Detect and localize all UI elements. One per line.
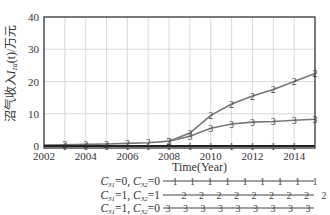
series-marker-1: 1 xyxy=(83,141,88,152)
legend-marker: 2 xyxy=(304,190,309,201)
x-tick-label: 2014 xyxy=(283,150,306,162)
data-series: 222222222222233333333111111111111 xyxy=(44,68,318,152)
legend-marker: 1 xyxy=(190,176,195,187)
series-marker-1: 1 xyxy=(271,141,276,152)
legend-label: C31=0, C32=0 xyxy=(100,175,160,189)
line-chart: 010203040 2002200420062008201020122014 2… xyxy=(0,0,330,215)
legend-label: C31=1, C32=1 xyxy=(100,189,160,203)
series-marker-1: 1 xyxy=(125,141,130,152)
legend-marker: 2 xyxy=(234,190,239,201)
legend-marker: 1 xyxy=(208,176,213,187)
legend-marker: 2 xyxy=(182,190,187,201)
legend-marker: 2 xyxy=(322,190,327,201)
legend-marker: 1 xyxy=(173,176,178,187)
series-marker-1: 1 xyxy=(104,141,109,152)
series-marker-1: 1 xyxy=(250,141,255,152)
series-marker-3: 3 xyxy=(229,119,234,130)
x-axis-ticks: 2002200420062008201020122014 xyxy=(33,150,306,162)
series-marker-2: 2 xyxy=(292,76,297,87)
y-axis-title-text: 沼气收入Iza(t)/万元 xyxy=(3,25,19,123)
y-axis-title: 沼气收入Iza(t)/万元 xyxy=(3,25,19,123)
legend-marker: 3 xyxy=(306,203,311,214)
legend-marker: 3 xyxy=(166,203,171,214)
legend-marker: 2 xyxy=(199,190,204,201)
series-marker-3: 3 xyxy=(250,117,255,128)
legend-marker: 3 xyxy=(183,203,188,214)
x-tick-label: 2004 xyxy=(75,150,98,162)
y-tick-label: 30 xyxy=(28,43,40,55)
series-marker-3: 3 xyxy=(271,116,276,127)
series-marker-1: 1 xyxy=(187,141,192,152)
plot-frame xyxy=(44,17,315,148)
legend-marker: 1 xyxy=(225,176,230,187)
legend-marker: 3 xyxy=(253,203,258,214)
x-tick-label: 2002 xyxy=(33,150,55,162)
legend-marker: 1 xyxy=(313,176,318,187)
y-tick-label: 20 xyxy=(28,76,40,88)
legend: C31=0, C32=0111111111C31=1, C32=12222222… xyxy=(100,175,326,215)
series-marker-1: 1 xyxy=(292,141,297,152)
legend-label: C31=1, C32=0 xyxy=(100,202,160,215)
legend-marker: 3 xyxy=(288,203,293,214)
series-marker-2: 2 xyxy=(250,91,255,102)
legend-marker: 2 xyxy=(252,190,257,201)
series-marker-1: 1 xyxy=(62,141,67,152)
legend-marker: 2 xyxy=(287,190,292,201)
series-marker-2: 2 xyxy=(208,110,213,121)
legend-marker: 1 xyxy=(243,176,248,187)
series-marker-1: 1 xyxy=(229,141,234,152)
x-tick-label: 2006 xyxy=(116,150,139,162)
legend-marker: 3 xyxy=(271,203,276,214)
y-axis-ticks: 010203040 xyxy=(28,11,40,152)
y-tick-label: 10 xyxy=(28,108,40,120)
series-marker-1: 1 xyxy=(146,141,151,152)
series-marker-3: 3 xyxy=(292,115,297,126)
series-marker-1: 1 xyxy=(208,141,213,152)
series-marker-3: 3 xyxy=(208,123,213,134)
series-marker-1: 1 xyxy=(167,141,172,152)
legend-marker: 1 xyxy=(278,176,283,187)
legend-marker: 2 xyxy=(269,190,274,201)
legend-marker: 1 xyxy=(260,176,265,187)
x-tick-label: 2012 xyxy=(241,150,263,162)
legend-marker: 3 xyxy=(218,203,223,214)
series-marker-2: 2 xyxy=(271,84,276,95)
legend-marker: 3 xyxy=(236,203,241,214)
legend-marker: 1 xyxy=(295,176,300,187)
y-tick-label: 40 xyxy=(28,11,40,23)
x-axis-title: Time(Year) xyxy=(172,160,227,174)
series-marker-2: 2 xyxy=(229,99,234,110)
legend-marker: 2 xyxy=(217,190,222,201)
legend-marker: 3 xyxy=(201,203,206,214)
